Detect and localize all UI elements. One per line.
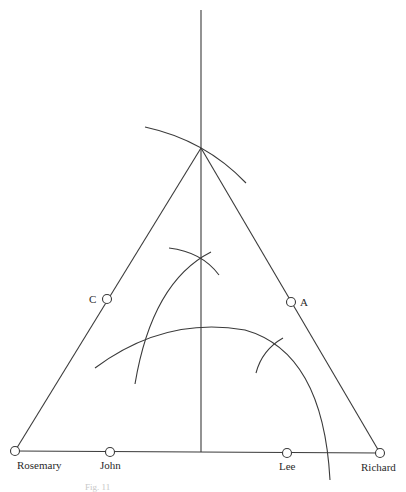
point-marker-richard	[376, 449, 385, 458]
apex-arc	[145, 127, 246, 183]
crossing-arc-right	[135, 252, 211, 384]
label-a: A	[300, 296, 308, 308]
point-marker-c	[103, 295, 112, 304]
label-lee: Lee	[279, 460, 296, 472]
point-marker-rosemary	[11, 447, 20, 456]
point-marker-john	[106, 448, 115, 457]
small-right-arc	[256, 338, 283, 373]
label-richard: Richard	[361, 461, 396, 473]
geometry-diagram: Rosemary John Lee Richard C A Fig. 11	[0, 0, 406, 492]
point-marker-a	[287, 298, 296, 307]
crossing-arc-left	[169, 248, 219, 275]
label-c: C	[89, 293, 96, 305]
point-marker-lee	[283, 449, 292, 458]
large-base-arc	[95, 327, 330, 480]
label-john: John	[100, 459, 121, 471]
label-rosemary: Rosemary	[17, 459, 62, 471]
triangle-base	[15, 451, 380, 453]
figure-caption: Fig. 11	[85, 482, 110, 492]
